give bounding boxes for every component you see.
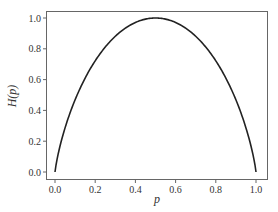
x-tick-label: 0.4 (129, 184, 142, 195)
y-tick-label: 0.2 (29, 136, 42, 147)
x-tick-label: 0.0 (49, 184, 62, 195)
entropy-chart: 0.00.20.40.60.81.0 0.00.20.40.60.81.0 p … (0, 0, 278, 212)
x-axis-label: p (153, 192, 160, 206)
y-tick-label: 0.6 (29, 74, 42, 85)
y-tick-label: 0.0 (29, 167, 42, 178)
y-axis: 0.00.20.40.60.81.0 (29, 13, 47, 178)
x-tick-label: 1.0 (250, 184, 263, 195)
y-tick-label: 0.4 (29, 105, 42, 116)
entropy-curve (55, 18, 256, 172)
x-tick-label: 0.8 (210, 184, 223, 195)
y-tick-label: 1.0 (29, 13, 42, 24)
x-tick-label: 0.6 (169, 184, 182, 195)
y-axis-label: H(p) (5, 85, 19, 109)
y-tick-label: 0.8 (29, 43, 42, 54)
x-tick-label: 0.2 (89, 184, 102, 195)
